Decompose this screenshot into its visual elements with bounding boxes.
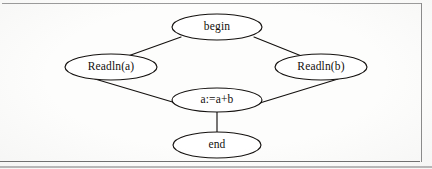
flow-graph: beginReadln(a)Readln(b)a:=a+bend (0, 0, 432, 169)
node-begin[interactable]: begin (172, 14, 262, 40)
node-assign[interactable]: a:=a+b (172, 88, 262, 112)
node-label-readln_a: Readln(a) (88, 60, 135, 73)
node-layer: beginReadln(a)Readln(b)a:=a+bend (65, 14, 367, 158)
edge-readln_b-assign (250, 79, 338, 106)
node-label-readln_b: Readln(b) (297, 60, 344, 73)
edge-begin-readln_b (254, 37, 304, 57)
node-label-assign: a:=a+b (200, 93, 233, 105)
node-label-end: end (208, 138, 225, 150)
scanned-figure-page: beginReadln(a)Readln(b)a:=a+bend (0, 0, 432, 169)
node-readln_b[interactable]: Readln(b) (275, 54, 367, 80)
node-readln_a[interactable]: Readln(a) (65, 54, 157, 80)
node-end[interactable]: end (173, 132, 261, 158)
edge-begin-readln_a (128, 37, 181, 56)
node-label-begin: begin (204, 20, 230, 33)
edge-layer (95, 37, 338, 132)
